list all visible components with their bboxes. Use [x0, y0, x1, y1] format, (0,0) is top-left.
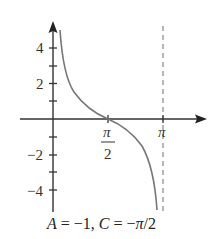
y-tick-label-neg4: −4 [27, 183, 43, 199]
y-tick-label-4: 4 [36, 40, 44, 56]
y-tick-label-neg2: −2 [27, 147, 43, 163]
x-tick-label-pi-half-numerator: π [103, 124, 111, 140]
x-tick-label-pi-half-denominator: 2 [104, 146, 112, 162]
cotangent-graph: 4 2 −2 −4 π 2 π A = −1, C = −π/2 [0, 0, 216, 239]
caption: A = −1, C = −π/2 [46, 215, 156, 232]
x-tick-label-pi: π [158, 124, 166, 140]
cotangent-curve [60, 30, 157, 210]
y-tick-label-2: 2 [36, 76, 44, 92]
